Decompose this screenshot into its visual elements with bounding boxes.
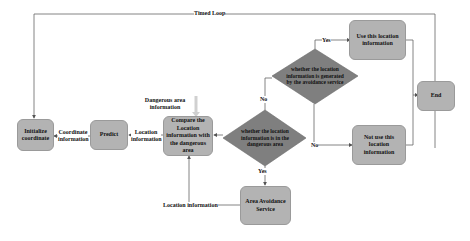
area-avoidance-service-text: Area Avoidance Service	[243, 198, 288, 213]
yes-label-1: Yes	[322, 37, 331, 44]
compare-node[interactable]: Compare the Location information with th…	[163, 116, 213, 156]
decision-generated-text: whether the location information is gene…	[283, 62, 347, 90]
timed-loop-label: Timed Loop	[194, 10, 225, 17]
initialize-coordinate-text: Initialize coordinate	[20, 128, 51, 143]
predict-node[interactable]: Predict	[90, 120, 128, 150]
location-information-label-1: Location information	[131, 129, 161, 143]
end-node[interactable]: End	[417, 81, 455, 111]
not-use-location-info-node[interactable]: Not use this location information	[352, 125, 406, 165]
dangerous-area-information-label: Dangerous area information	[140, 97, 190, 111]
use-location-info-text: Use this location information	[352, 33, 403, 48]
area-avoidance-service-node[interactable]: Area Avoidance Service	[240, 186, 291, 225]
no-label-1: No	[260, 96, 267, 103]
no-label-2: No	[311, 142, 318, 149]
decision-dangerous-text: whether the location information is in t…	[236, 124, 294, 152]
compare-text: Compare the Location information with th…	[166, 117, 210, 155]
location-information-label-2: Location information	[163, 202, 218, 209]
end-text: End	[431, 92, 442, 100]
initialize-coordinate-node[interactable]: Initialize coordinate	[17, 119, 54, 151]
not-use-location-info-text: Not use this location information	[355, 134, 403, 157]
predict-text: Predict	[100, 131, 119, 139]
yes-label-2: Yes	[258, 168, 267, 175]
use-location-info-node[interactable]: Use this location information	[349, 20, 406, 60]
flowchart: Timed Loop Initialize coordinate Predict…	[0, 0, 470, 241]
coordinate-information-label: Coordinate information	[58, 129, 88, 143]
